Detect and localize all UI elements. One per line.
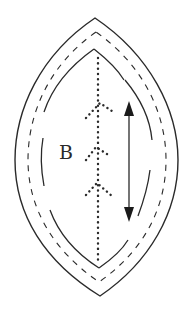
grainline-arrow <box>124 101 134 222</box>
pattern-piece-svg <box>0 0 185 310</box>
dotted-chevrons <box>86 103 113 197</box>
arrow-head-up-icon <box>124 101 134 116</box>
pattern-diagram: B <box>0 0 185 310</box>
piece-label: B <box>59 143 73 162</box>
outer-cut-line <box>15 18 178 296</box>
chevron-3 <box>86 183 113 197</box>
inner-line <box>41 49 152 268</box>
seam-line <box>28 32 166 282</box>
arrow-head-down-icon <box>124 207 134 222</box>
